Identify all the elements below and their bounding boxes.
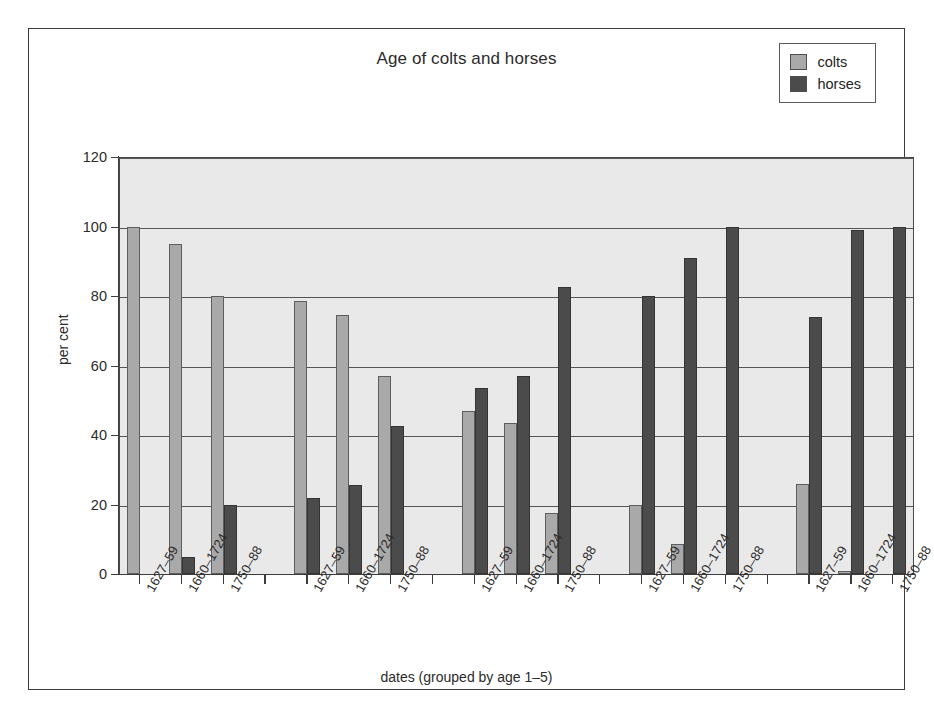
legend-swatch-colts — [790, 54, 807, 70]
y-tick-mark — [111, 435, 119, 436]
gridline — [120, 228, 913, 229]
y-tick-mark — [111, 366, 119, 367]
y-tick-label: 120 — [61, 149, 107, 165]
x-tick-mark-spacer — [432, 575, 433, 584]
x-tick-mark — [850, 575, 851, 584]
bar-colts — [127, 227, 140, 575]
x-tick-mark-spacer — [599, 575, 600, 584]
bar-horses — [517, 376, 530, 574]
y-tick-mark — [111, 505, 119, 506]
legend-item-colts: colts — [790, 51, 861, 73]
bar-horses — [475, 388, 488, 574]
bar-horses — [809, 317, 822, 574]
x-tick-mark — [181, 575, 182, 584]
chart-title: Age of colts and horses — [29, 49, 904, 69]
y-tick-label: 60 — [61, 358, 107, 374]
x-axis-title: dates (grouped by age 1–5) — [29, 669, 904, 685]
gridline — [120, 297, 913, 298]
x-tick-mark — [139, 575, 140, 584]
x-tick-mark — [641, 575, 642, 584]
bar-horses — [726, 227, 739, 575]
bar-colts — [336, 315, 349, 574]
x-tick-mark — [557, 575, 558, 584]
x-tick-mark-spacer — [767, 575, 768, 584]
gridline — [120, 367, 913, 368]
bar-horses — [684, 258, 697, 574]
gridline — [120, 158, 913, 159]
figure-frame: Age of colts and horses colts horses per… — [28, 28, 905, 690]
y-tick-label: 40 — [61, 427, 107, 443]
chart-legend: colts horses — [779, 43, 876, 103]
y-tick-label: 0 — [61, 566, 107, 582]
x-tick-mark-spacer — [264, 575, 265, 584]
x-tick-mark — [683, 575, 684, 584]
bar-colts — [629, 505, 642, 575]
legend-swatch-horses — [790, 76, 807, 92]
y-tick-mark — [111, 227, 119, 228]
bar-horses — [558, 287, 571, 574]
x-tick-mark — [892, 575, 893, 584]
legend-label-colts: colts — [817, 54, 847, 70]
bar-horses — [349, 485, 362, 574]
bar-horses — [307, 498, 320, 574]
x-tick-mark — [474, 575, 475, 584]
y-tick-mark — [111, 574, 119, 575]
bar-colts — [169, 244, 182, 574]
bar-colts — [294, 301, 307, 574]
x-tick-mark — [808, 575, 809, 584]
bar-colts — [796, 484, 809, 574]
x-tick-mark — [390, 575, 391, 584]
y-tick-label: 100 — [61, 219, 107, 235]
y-tick-mark — [111, 296, 119, 297]
bar-colts — [462, 411, 475, 574]
y-tick-label: 20 — [61, 497, 107, 513]
bar-horses — [851, 230, 864, 574]
x-tick-mark — [516, 575, 517, 584]
bar-horses — [391, 426, 404, 574]
y-tick-mark — [111, 157, 119, 158]
x-tick-mark — [725, 575, 726, 584]
y-tick-label: 80 — [61, 288, 107, 304]
x-tick-mark — [306, 575, 307, 584]
x-tick-mark — [348, 575, 349, 584]
x-tick-mark — [223, 575, 224, 584]
bar-horses — [642, 296, 655, 574]
bar-horses — [893, 227, 906, 575]
legend-label-horses: horses — [817, 76, 861, 92]
legend-item-horses: horses — [790, 73, 861, 95]
plot-area — [119, 157, 914, 574]
